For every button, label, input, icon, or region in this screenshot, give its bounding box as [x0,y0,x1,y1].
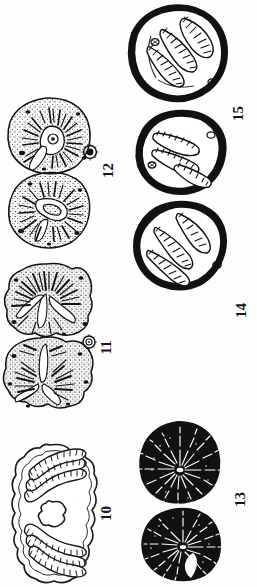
figure-label-11: 11 [99,339,114,357]
figure-11-upper-section [2,262,96,340]
figure-14-lower-cell [128,198,236,296]
figure-12-detail-circle [80,142,100,162]
figure-12-upper-section [4,96,96,178]
figure-label-14: 14 [234,302,249,320]
figure-label-13: 13 [233,491,248,509]
figure-12-lower-section [4,170,96,252]
figure-14-upper-cell [130,108,234,200]
figure-13-upper-section [136,420,224,508]
figure-label-12: 12 [101,162,116,180]
figure-13-lower-section [137,506,225,586]
figure-10-section [6,442,102,586]
figure-11-detail-circle [79,332,99,352]
figure-15 [124,2,236,110]
figure-label-15: 15 [231,105,246,123]
figure-label-10: 10 [99,505,114,523]
illustration-plate: 10 11 12 13 14 15 [0,0,257,587]
